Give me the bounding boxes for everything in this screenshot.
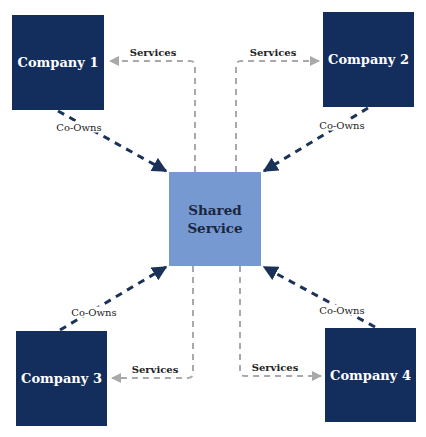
shared-service-label-line1: Shared: [188, 201, 241, 219]
company-2-node: Company 2: [323, 12, 414, 107]
co-owns-label-3: Co-Owns: [70, 307, 117, 318]
co-owns-edge-2: [264, 108, 368, 171]
co-owns-edge-1: [58, 111, 166, 171]
company-3-node: Company 3: [16, 331, 107, 426]
services-edge-3: [112, 266, 193, 378]
co-owns-label-2: Co-Owns: [318, 120, 365, 131]
co-owns-label-4: Co-Owns: [318, 305, 365, 316]
services-label-3: Services: [131, 364, 180, 375]
company-1-node: Company 1: [12, 15, 104, 110]
company-4-label: Company 4: [330, 368, 411, 383]
services-edge-2: [236, 61, 319, 172]
shared-service-label-line2: Service: [187, 219, 242, 237]
company-1-label: Company 1: [18, 55, 99, 70]
services-label-1: Services: [129, 47, 178, 58]
company-4-node: Company 4: [325, 328, 416, 422]
co-owns-edge-3: [60, 267, 166, 330]
co-owns-label-1: Co-Owns: [55, 122, 102, 133]
services-edge-4: [240, 266, 321, 376]
shared-service-node: Shared Service: [169, 172, 261, 266]
co-owns-edge-4: [264, 267, 375, 327]
company-2-label: Company 2: [328, 52, 409, 67]
services-label-2: Services: [249, 47, 298, 58]
company-3-label: Company 3: [21, 371, 102, 386]
services-label-4: Services: [251, 362, 300, 373]
services-edge-1: [110, 61, 195, 172]
